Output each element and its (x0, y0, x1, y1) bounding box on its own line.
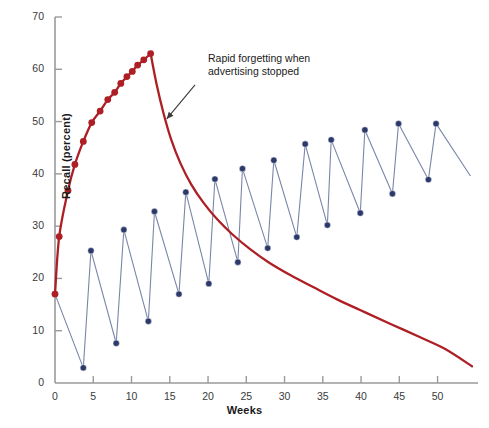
data-point-advertising (104, 96, 111, 103)
data-point-advertising (134, 62, 141, 69)
data-point-pulsed (80, 365, 86, 371)
data-point-advertising (129, 68, 136, 75)
y-axis-tick-label: 50 (18, 115, 44, 127)
data-point-pulsed (362, 127, 368, 133)
chart-figure: Recall (percent) Weeks Rapid forgetting … (0, 0, 489, 428)
data-point-pulsed (145, 318, 151, 324)
data-point-advertising (147, 50, 154, 57)
x-axis-tick-label: 45 (386, 390, 412, 402)
data-point-advertising (88, 119, 95, 126)
x-axis-tick-label: 35 (310, 390, 336, 402)
data-point-pulsed (328, 137, 334, 143)
annotation-line: advertising stopped (208, 65, 310, 78)
x-axis-tick-label: 30 (272, 390, 298, 402)
x-axis-tick-label: 40 (348, 390, 374, 402)
data-point-pulsed (302, 141, 308, 147)
y-axis-tick-label: 40 (18, 167, 44, 179)
data-point-pulsed (183, 189, 189, 195)
data-point-advertising (117, 80, 124, 87)
data-point-pulsed (113, 340, 119, 346)
y-axis-title: Recall (percent) (60, 76, 72, 236)
x-axis-tick-label: 15 (157, 390, 183, 402)
data-point-advertising (124, 73, 131, 80)
data-point-pulsed (121, 227, 127, 233)
x-axis-tick-label: 50 (425, 390, 451, 402)
data-point-pulsed (271, 157, 277, 163)
annotation-line: Rapid forgetting when (208, 52, 310, 65)
data-point-pulsed (395, 120, 401, 126)
data-point-advertising (80, 138, 87, 145)
x-axis-tick-label: 10 (119, 390, 145, 402)
data-point-advertising (140, 56, 147, 63)
data-point-pulsed (433, 120, 439, 126)
x-axis-tick-label: 20 (195, 390, 221, 402)
x-axis-tick-label: 5 (80, 390, 106, 402)
data-point-pulsed (151, 208, 157, 214)
data-point-pulsed (389, 191, 395, 197)
data-point-pulsed (176, 291, 182, 297)
data-point-pulsed (294, 234, 300, 240)
x-axis-title: Weeks (0, 404, 489, 416)
x-axis-tick-label: 25 (233, 390, 259, 402)
y-axis-tick-label: 20 (18, 271, 44, 283)
data-point-advertising (52, 291, 59, 298)
data-point-pulsed (235, 259, 241, 265)
data-point-advertising (97, 108, 104, 115)
data-point-pulsed (425, 176, 431, 182)
data-point-pulsed (265, 245, 271, 251)
data-point-pulsed (239, 165, 245, 171)
y-axis-tick-label: 70 (18, 10, 44, 22)
y-axis-tick-label: 0 (18, 376, 44, 388)
data-point-pulsed (212, 176, 218, 182)
data-point-pulsed (88, 248, 94, 254)
chart-annotation: Rapid forgetting whenadvertising stopped (208, 52, 310, 78)
y-axis-tick-label: 60 (18, 62, 44, 74)
data-point-pulsed (324, 222, 330, 228)
y-axis-tick-label: 30 (18, 219, 44, 231)
y-axis-tick-label: 10 (18, 324, 44, 336)
x-axis-tick-label: 0 (42, 390, 68, 402)
data-point-advertising (71, 161, 78, 168)
data-point-pulsed (357, 210, 363, 216)
data-point-pulsed (206, 280, 212, 286)
series-line-advertising-decay (151, 54, 472, 367)
data-point-advertising (111, 89, 118, 96)
